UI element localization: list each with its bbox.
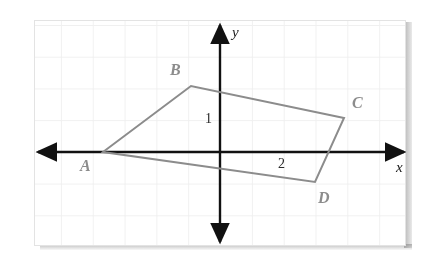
quadrilateral-path bbox=[103, 86, 344, 182]
figure-graphics bbox=[0, 0, 430, 265]
x-axis-label: x bbox=[396, 160, 403, 175]
y-axis-label: y bbox=[232, 25, 239, 40]
y-axis-tick-label-1: 1 bbox=[205, 112, 212, 126]
x-axis-tick-label-2: 2 bbox=[278, 157, 285, 171]
vertex-label-d: D bbox=[318, 190, 330, 206]
figure-page: x y 1 2 A B C D bbox=[0, 0, 430, 265]
vertex-label-a: A bbox=[80, 158, 91, 174]
axes-group bbox=[38, 25, 404, 242]
quadrilateral-abcd bbox=[103, 86, 344, 182]
vertex-label-c: C bbox=[352, 95, 363, 111]
vertex-label-b: B bbox=[170, 62, 181, 78]
